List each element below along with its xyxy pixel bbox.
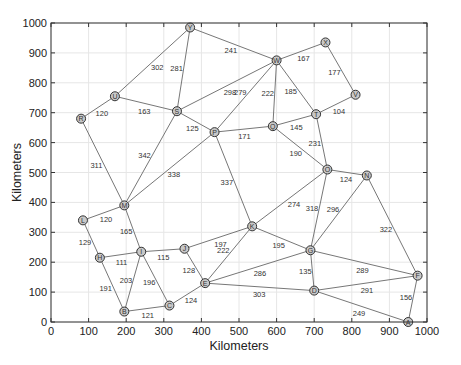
edge-weight-label: 318 [306, 204, 319, 213]
svg-text:T: T [314, 111, 319, 118]
node-O: O [323, 165, 332, 174]
svg-text:C: C [167, 302, 172, 309]
y-tick-label: 300 [29, 226, 47, 238]
x-tick-label: 100 [79, 325, 97, 337]
edge-weight-label: 203 [120, 276, 133, 285]
edge-weight-label: 120 [96, 109, 109, 118]
edge-weight-label: 191 [99, 284, 112, 293]
edge-weight-label: 289 [356, 266, 369, 275]
edge-weight-label: 342 [138, 151, 151, 160]
y-tick-label: 600 [29, 137, 47, 149]
node-M: M [120, 201, 129, 210]
x-tick-label: 400 [192, 325, 210, 337]
edge-weight-label: 196 [143, 278, 156, 287]
edge-weight-label: 195 [272, 241, 285, 250]
x-tick-label: 1000 [415, 325, 439, 337]
node-S: S [172, 107, 181, 116]
svg-text:B: B [122, 308, 127, 315]
x-tick-label: 700 [305, 325, 323, 337]
x-axis-label: Kilometers [209, 339, 268, 353]
x-tick-label: 300 [155, 325, 173, 337]
edge-weight-label: 128 [183, 266, 196, 275]
node-G: G [306, 246, 315, 255]
edge-weight-label: 120 [100, 215, 113, 224]
edge-weight-label: 222 [261, 89, 274, 98]
svg-text:D: D [312, 287, 317, 294]
edge-weight-label: 104 [333, 107, 346, 116]
y-tick-label: 1000 [23, 17, 47, 29]
edge-weight-label: 185 [284, 87, 297, 96]
svg-text:K: K [250, 223, 255, 230]
x-tick-label: 200 [117, 325, 135, 337]
edge-weight-label: 129 [79, 238, 92, 247]
node-V: V [351, 90, 360, 99]
svg-text:W: W [273, 57, 280, 64]
node-D: D [310, 286, 319, 295]
edge-weight-label: 279 [234, 88, 247, 97]
svg-text:V: V [353, 91, 358, 98]
y-tick-label: 800 [29, 77, 47, 89]
node-Q: Q [268, 122, 277, 131]
edge-weight-label: 302 [151, 63, 164, 72]
y-tick-label: 700 [29, 107, 47, 119]
node-E: E [201, 279, 210, 288]
edge-weight-label: 135 [299, 267, 312, 276]
edge-S-W [177, 60, 277, 111]
node-K: K [248, 222, 257, 231]
y-tick-label: 900 [29, 47, 47, 59]
edge-weight-label: 145 [290, 123, 303, 132]
svg-text:E: E [203, 280, 208, 287]
edge-weight-label: 311 [90, 161, 102, 170]
node-Y: Y [186, 23, 195, 32]
svg-text:Q: Q [270, 123, 276, 131]
node-T: T [312, 110, 321, 119]
node-P: P [210, 128, 219, 137]
svg-text:G: G [308, 247, 313, 254]
edge-weight-label: 296 [327, 205, 340, 214]
edge-weight-label: 322 [380, 225, 393, 234]
node-I: I [137, 247, 146, 256]
edge-weight-label: 337 [221, 178, 234, 187]
node-X: X [321, 38, 330, 47]
edge-I-J [141, 249, 184, 252]
node-C: C [165, 301, 174, 310]
node-L: L [78, 216, 87, 225]
svg-text:S: S [175, 108, 180, 115]
svg-text:P: P [212, 129, 217, 136]
edge-K-O [252, 170, 327, 227]
x-tick-label: 800 [343, 325, 361, 337]
svg-text:H: H [97, 254, 102, 261]
svg-text:L: L [81, 217, 85, 224]
node-J: J [180, 244, 189, 253]
x-tick-label: 500 [230, 325, 248, 337]
network-chart: 1203021632812412981253423113381671771852… [0, 0, 461, 365]
edge-weight-label: 124 [340, 175, 353, 184]
edge-weight-label: 111 [116, 258, 127, 267]
x-tick-label: 600 [267, 325, 285, 337]
edge-weight-label: 222 [217, 246, 230, 255]
node-W: W [272, 56, 281, 65]
edge-weight-label: 338 [168, 170, 181, 179]
edge-weight-label: 171 [238, 132, 251, 141]
node-R: R [77, 114, 86, 123]
svg-text:I: I [140, 248, 142, 255]
edge-weight-label: 115 [157, 253, 169, 262]
edge-weight-label: 121 [142, 311, 155, 320]
svg-text:J: J [183, 245, 187, 252]
edge-weight-label: 303 [253, 290, 266, 299]
svg-text:M: M [121, 202, 127, 209]
edge-R-M [81, 119, 124, 206]
svg-text:R: R [79, 115, 84, 122]
node-N: N [362, 171, 371, 180]
edge-weight-label: 231 [309, 139, 322, 148]
y-tick-label: 0 [41, 316, 47, 328]
svg-text:X: X [323, 39, 328, 46]
y-tick-label: 500 [29, 167, 47, 179]
svg-text:U: U [112, 93, 117, 100]
edge-weight-label: 124 [185, 296, 198, 305]
edge-weight-label: 190 [289, 149, 302, 158]
node-B: B [120, 307, 129, 316]
node-H: H [95, 253, 104, 262]
y-axis-label: Kilometers [10, 143, 24, 202]
edge-weight-label: 241 [225, 46, 238, 55]
